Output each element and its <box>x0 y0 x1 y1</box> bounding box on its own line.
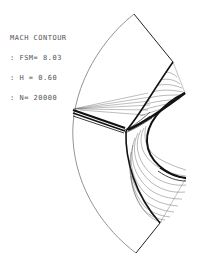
dense-contour-band <box>158 168 186 181</box>
expansion-fan-lines <box>73 93 150 115</box>
lower-outlet-edge <box>160 178 186 223</box>
incident-shock <box>73 110 125 133</box>
mach-contour-plot <box>0 0 207 259</box>
reflected-shock-upper <box>126 62 173 131</box>
bottom-outlet-boundary <box>136 223 160 253</box>
upper-outlet-edge <box>173 62 185 93</box>
contour-lines-lower <box>130 126 186 222</box>
top-outlet-boundary <box>134 14 173 62</box>
